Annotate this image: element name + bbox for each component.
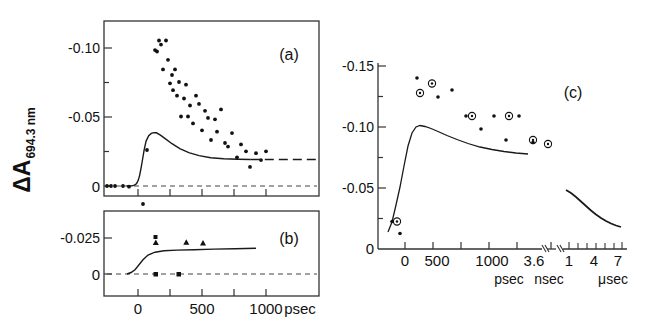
panel-c-ytick-label-0: -0.15 <box>342 58 374 74</box>
panel-c-unit-psec: psec <box>494 271 524 287</box>
panel-c-usec-decay-curve <box>566 190 621 227</box>
transient-absorption-figure: ΔA694.3 nm -0.10 -0.05 0 <box>0 0 646 330</box>
panel-c-x-ticks-usec <box>569 242 622 249</box>
panel-c-xtick-label-psec-0: 0 <box>401 252 409 269</box>
panel-b-xtick-label-1: 500 <box>189 300 214 317</box>
y-axis-label-delta-a: ΔA694.3 nm <box>9 107 38 193</box>
y-axis-label-subscript: 694.3 nm <box>24 107 38 158</box>
figure-container: ΔA694.3 nm -0.10 -0.05 0 <box>0 0 646 330</box>
panel-b-ytick-label-1: 0 <box>92 266 100 283</box>
panel-c-unit-usec: μsec <box>598 271 628 287</box>
panel-a-ytick-label-2: 0 <box>92 178 100 195</box>
panel-c-xtick-label-nsec-0: 3.6 <box>524 252 545 269</box>
panel-b-triangle-markers <box>153 239 206 245</box>
panel-c-xtick-label-psec-1: 500 <box>424 252 449 269</box>
panel-c-unit-nsec: nsec <box>534 271 564 287</box>
panel-a-ytick-label-1: -0.05 <box>68 109 100 125</box>
panel-b-xaxis-unit: psec <box>284 300 316 317</box>
panel-b: -0.025 0 <box>60 211 319 317</box>
panel-a: -0.10 -0.05 0 <box>68 21 319 206</box>
panel-b-ytick-label-0: -0.025 <box>60 230 100 246</box>
panel-b-xtick-label-2: 1000 <box>249 300 282 317</box>
panel-a-ytick-label-0: -0.10 <box>68 40 100 56</box>
panel-a-fit-curve <box>127 133 251 186</box>
panel-a-y-ticks <box>104 48 112 186</box>
panel-b-frame <box>104 211 319 296</box>
panel-a-label: (a) <box>279 46 299 63</box>
panel-c-xtick-label-usec-1: 4 <box>590 252 598 269</box>
panel-b-fit-curve <box>127 248 256 274</box>
panel-c-xtick-label-usec-0: 1 <box>565 252 573 269</box>
panel-b-y-ticks <box>104 238 112 274</box>
panel-c-ytick-label-1: -0.10 <box>342 119 374 135</box>
panel-c-y-ticks <box>378 66 386 219</box>
panel-c-ytick-label-3: 0 <box>366 240 374 257</box>
panel-c-ytick-label-2: -0.05 <box>342 180 374 196</box>
panel-c-small-dots <box>390 76 535 235</box>
panel-c-label: (c) <box>564 84 583 101</box>
panel-c-x-ticks-psec <box>405 242 517 249</box>
panel-c: -0.15 -0.10 -0.05 0 <box>342 58 628 287</box>
panel-b-x-ticks <box>138 289 266 296</box>
panel-b-label: (b) <box>279 230 299 247</box>
panel-a-x-ticks <box>138 189 266 196</box>
panel-c-circled-dots <box>393 80 551 225</box>
y-axis-label-group: ΔA694.3 nm <box>9 107 38 193</box>
panel-c-xtick-label-psec-2: 1000 <box>475 252 508 269</box>
panel-c-xtick-label-usec-2: 7 <box>614 252 622 269</box>
panel-b-xtick-label-0: 0 <box>134 300 142 317</box>
panel-a-data-points <box>105 39 268 206</box>
panel-b-square-markers <box>154 235 182 277</box>
